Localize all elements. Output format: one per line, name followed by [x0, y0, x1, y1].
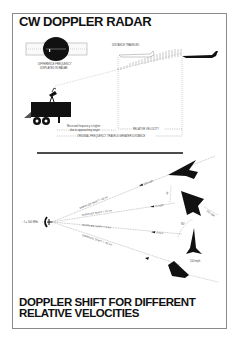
ray-2-speed-label: 71 mph: [155, 203, 165, 208]
ray-3-speed: 0 mph: [151, 230, 164, 235]
ray-1-shift-label: DOPPLER SHIFT = 30 Hz: [79, 195, 109, 210]
aircraft-approaching-icon: [168, 160, 198, 179]
scope-display: [26, 37, 87, 61]
ray-3-shift-label: DOPPLER SHIFT = 0 Hz: [82, 223, 112, 230]
ray-2: DOPPLER SHIFT = 21 Hz: [82, 208, 113, 217]
aircraft-speed-label-2: 100 mph: [190, 259, 201, 263]
aircraft-crossing-icon: [186, 228, 202, 254]
ray-2-speed: 71 mph: [150, 203, 165, 209]
ray-4-shift-label: DOPPLER SHIFT = -30 Hz: [82, 233, 114, 247]
aircraft-ghost-icon: [119, 51, 154, 57]
ray-3-speed-label: 0 mph: [156, 230, 164, 235]
scope-caption-2: DISPLAYED IN RADAR: [40, 66, 68, 70]
angle-label-90: 90°: [181, 222, 185, 226]
ray-4-marker: [145, 257, 149, 260]
distance-label: DISTANCE TRAVELED: [112, 43, 139, 47]
received-frequency-label-2: due to approaching target: [70, 128, 100, 132]
title-doppler-shift: DOPPLER SHIFT FOR DIFFERENT RELATIVE VEL…: [19, 297, 229, 319]
ray-1-speed-label: 100 mph: [143, 178, 154, 186]
received-frequency-label-1: Received frequency is higher: [67, 124, 101, 128]
scope-caption-1: DIFFERENCE FREQUENCY: [38, 62, 72, 66]
relative-velocity-label: RELATIVE VELOCITY: [133, 127, 159, 131]
ray-4: DOPPLER SHIFT = -30 Hz: [82, 233, 114, 247]
aircraft-receding-icon: [168, 261, 189, 278]
angle-label-45: 45°: [165, 191, 170, 196]
radar-frequency-label: f = 100 MHz: [24, 220, 39, 224]
radar-trailer-icon: [24, 88, 71, 125]
ray-1-speed: 100 mph: [138, 178, 154, 188]
ray-1: DOPPLER SHIFT = 30 Hz: [79, 195, 109, 210]
original-frequency-label: ORIGINAL FREQUENCY TRAVELS GREATER DISTA…: [77, 134, 146, 138]
jet-aircraft-icon: [182, 51, 218, 58]
ray-3: DOPPLER SHIFT = 0 Hz: [82, 223, 112, 230]
diagram-canvas: DIFFERENCE FREQUENCY DISPLAYED IN RADAR …: [0, 0, 238, 340]
radar-dish-icon: [45, 217, 52, 227]
aircraft-angled-icon: [181, 191, 204, 216]
ray-2-shift-label: DOPPLER SHIFT = 21 Hz: [82, 208, 113, 217]
